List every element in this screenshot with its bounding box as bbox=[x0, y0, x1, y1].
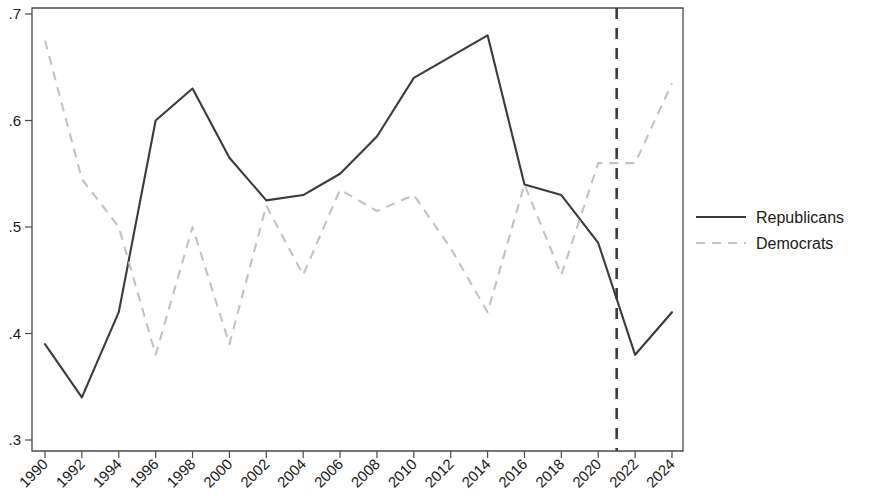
x-tick-label: 2002 bbox=[237, 455, 273, 491]
x-tick-label: 2020 bbox=[569, 455, 605, 491]
x-tick-label: 2010 bbox=[384, 455, 420, 491]
y-tick-label: .3 bbox=[8, 431, 21, 448]
x-tick-label: 2000 bbox=[200, 455, 236, 491]
x-tick-label: 1990 bbox=[16, 455, 52, 491]
x-tick-label: 2004 bbox=[274, 455, 310, 491]
series-line-democrats bbox=[45, 41, 672, 355]
x-tick-label: 2014 bbox=[458, 455, 494, 491]
x-tick-label: 1992 bbox=[52, 455, 88, 491]
x-tick-label: 2016 bbox=[495, 455, 531, 491]
chart-legend: RepublicansDemocrats bbox=[696, 209, 844, 252]
x-tick-label: 1994 bbox=[89, 455, 125, 491]
legend-label-democrats: Democrats bbox=[756, 235, 833, 252]
y-tick-label: .6 bbox=[8, 112, 21, 129]
x-tick-label: 2018 bbox=[532, 455, 568, 491]
x-tick-label: 2024 bbox=[643, 455, 679, 491]
series-line-republicans bbox=[45, 35, 672, 397]
x-tick-label: 1996 bbox=[126, 455, 162, 491]
y-tick-label: .4 bbox=[8, 325, 21, 342]
x-axis-ticks: 1990199219941996199820002002200420062008… bbox=[16, 451, 679, 491]
x-tick-label: 2008 bbox=[347, 455, 383, 491]
x-tick-label: 2022 bbox=[606, 455, 642, 491]
y-tick-label: .5 bbox=[8, 218, 21, 235]
y-tick-label: .7 bbox=[8, 5, 21, 22]
data-series-group bbox=[45, 35, 672, 397]
x-tick-label: 1998 bbox=[163, 455, 199, 491]
y-axis-ticks: .3.4.5.6.7 bbox=[8, 5, 32, 448]
x-tick-label: 2012 bbox=[421, 455, 457, 491]
x-tick-label: 2006 bbox=[311, 455, 347, 491]
legend-label-republicans: Republicans bbox=[756, 209, 844, 226]
line-chart: .3.4.5.6.7 19901992199419961998200020022… bbox=[0, 0, 870, 501]
chart-container: .3.4.5.6.7 19901992199419961998200020022… bbox=[0, 0, 870, 501]
plot-frame bbox=[32, 8, 683, 451]
